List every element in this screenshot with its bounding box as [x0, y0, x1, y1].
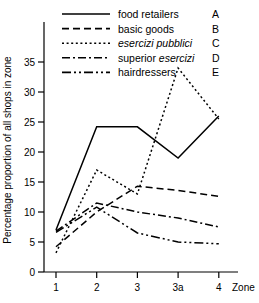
y-tick-label: 20 [24, 147, 36, 158]
data-series-group [56, 68, 219, 253]
y-tick-label: 15 [24, 177, 36, 188]
y-tick-label: 35 [24, 57, 36, 68]
legend-label-food-retailers: food retailers [118, 8, 179, 20]
y-tick-label: 30 [24, 87, 36, 98]
legend-key-A: A [212, 8, 219, 20]
legend-key-C: C [212, 37, 220, 49]
x-tick-label: 1 [53, 282, 59, 293]
y-tick-label: 25 [24, 117, 36, 128]
legend: food retailersAbasic goodsBesercizi pubb… [62, 8, 220, 78]
x-tick-label: 3a [173, 282, 185, 293]
y-tick-label: 5 [29, 237, 35, 248]
x-tick-label: 4 [216, 282, 222, 293]
y-axis-title: Percentage proportion of all shops in zo… [2, 56, 13, 244]
x-tick-label: 3 [135, 282, 141, 293]
legend-key-B: B [212, 23, 219, 35]
x-axis-ticks: 1233a4 [53, 272, 222, 293]
x-axis-title: Zone [232, 282, 255, 293]
series-line-esercizi-pubblici [56, 68, 219, 253]
legend-label-superior-esercizi: superior esercizi [118, 52, 195, 64]
chart-figure: 05101520253035Percentage proportion of a… [0, 0, 259, 303]
line-chart-canvas: 05101520253035Percentage proportion of a… [0, 0, 259, 303]
legend-label-esercizi-pubblici: esercizi pubblici [118, 37, 193, 49]
y-axis-ticks: 05101520253035 [24, 57, 44, 278]
x-tick-label: 2 [94, 282, 100, 293]
series-line-food-retailers [56, 116, 219, 230]
legend-key-E: E [212, 66, 219, 78]
legend-label-basic-goods: basic goods [118, 23, 174, 35]
legend-key-D: D [212, 52, 220, 64]
legend-label-hairdressers: hairdressers [118, 66, 176, 78]
y-tick-label: 10 [24, 207, 36, 218]
y-tick-label: 0 [29, 267, 35, 278]
